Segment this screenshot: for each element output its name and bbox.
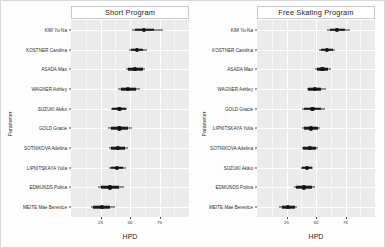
interval-row[interactable] bbox=[257, 178, 375, 196]
interval-row[interactable] bbox=[257, 80, 375, 98]
x-axis-tick-mark bbox=[346, 217, 347, 219]
y-axis-tick-label: EDMUNDS Polina bbox=[195, 185, 253, 190]
point-estimate-dot bbox=[325, 47, 329, 51]
interval-row[interactable] bbox=[257, 21, 375, 39]
point-estimate-dot bbox=[320, 67, 324, 71]
interval-row[interactable] bbox=[71, 41, 189, 59]
y-axis-tick-label: MEITE Mae Berenice bbox=[9, 205, 67, 210]
interval-row[interactable] bbox=[71, 80, 189, 98]
interval-row[interactable] bbox=[257, 41, 375, 59]
x-axis-title-short-program: HPD bbox=[71, 233, 189, 240]
point-estimate-dot bbox=[115, 166, 119, 170]
y-axis-tick-mark bbox=[255, 128, 257, 129]
interval-row[interactable] bbox=[71, 119, 189, 137]
y-axis-tick-label: KIM Yu-Na bbox=[195, 27, 253, 32]
y-axis-tick-mark bbox=[255, 49, 257, 50]
facet-short-program: Short Program KIM Yu-NaKOSTNER CarolinaA… bbox=[9, 6, 193, 244]
x-axis-tick-mark bbox=[160, 217, 161, 219]
y-axis-tick-label: LIPNITSKAYA Yulia bbox=[9, 165, 67, 170]
interval-row[interactable] bbox=[71, 139, 189, 157]
x-axis-tick-label: 75 bbox=[157, 220, 162, 225]
y-axis-tick-mark bbox=[255, 88, 257, 89]
y-axis-tick-label: ASADA Mao bbox=[195, 67, 253, 72]
point-estimate-dot bbox=[302, 185, 306, 189]
y-axis-tick-label: WAGNER Ashley bbox=[9, 86, 67, 91]
interval-row[interactable] bbox=[257, 100, 375, 118]
interval-row[interactable] bbox=[71, 21, 189, 39]
point-estimate-dot bbox=[126, 87, 130, 91]
y-axis-tick-label: SOTNIKOVA Adelina bbox=[9, 146, 67, 151]
y-axis-tick-mark bbox=[69, 128, 71, 129]
y-axis-tick-mark bbox=[255, 29, 257, 30]
point-estimate-dot bbox=[335, 28, 339, 32]
point-estimate-dot bbox=[313, 87, 317, 91]
interval-row[interactable] bbox=[71, 159, 189, 177]
y-axis-tick-label: ASADA Mao bbox=[9, 67, 67, 72]
interval-row[interactable] bbox=[71, 100, 189, 118]
y-axis-tick-mark bbox=[255, 69, 257, 70]
point-estimate-dot bbox=[108, 185, 112, 189]
x-axis-tick-label: 50 bbox=[128, 220, 133, 225]
y-axis-title-right: Parameter bbox=[201, 94, 207, 154]
y-axis-tick-label: EDMUNDS Polina bbox=[9, 185, 67, 190]
point-estimate-dot bbox=[100, 205, 104, 209]
y-axis-tick-mark bbox=[255, 148, 257, 149]
x-axis-tick-label: 50 bbox=[314, 220, 319, 225]
facet-strip-label: Short Program bbox=[105, 8, 155, 17]
interval-row[interactable] bbox=[257, 139, 375, 157]
y-axis-tick-label: KOSTNER Carolina bbox=[195, 47, 253, 52]
facet-free-skating-program: Free Skating Program KIM Yu-NaKOSTNER Ca… bbox=[195, 6, 379, 244]
point-estimate-dot bbox=[305, 166, 309, 170]
y-axis-title-left: Parameter bbox=[7, 94, 13, 154]
y-axis-tick-label: MEITE Mae Berenice bbox=[195, 205, 253, 210]
interval-row[interactable] bbox=[257, 198, 375, 216]
x-axis-tick-label: 25 bbox=[98, 220, 103, 225]
point-estimate-dot bbox=[133, 67, 137, 71]
y-axis-tick-mark bbox=[255, 167, 257, 168]
interval-row[interactable] bbox=[257, 159, 375, 177]
y-axis-tick-label: WAGNER Ashley bbox=[195, 86, 253, 91]
y-axis-tick-mark bbox=[255, 207, 257, 208]
x-axis-tick-mark bbox=[101, 217, 102, 219]
y-axis-tick-mark bbox=[69, 29, 71, 30]
x-axis-tick-mark bbox=[316, 217, 317, 219]
facet-strip-label: Free Skating Program bbox=[278, 8, 353, 17]
y-axis-tick-mark bbox=[255, 187, 257, 188]
point-estimate-dot bbox=[117, 126, 121, 130]
interval-row[interactable] bbox=[257, 60, 375, 78]
interval-row[interactable] bbox=[71, 178, 189, 196]
interval-row[interactable] bbox=[71, 60, 189, 78]
x-axis-tick-label: 25 bbox=[284, 220, 289, 225]
y-axis-tick-mark bbox=[69, 49, 71, 50]
y-axis-tick-mark bbox=[69, 167, 71, 168]
y-axis-tick-mark bbox=[69, 69, 71, 70]
facet-strip-free-skating-program: Free Skating Program bbox=[257, 6, 375, 19]
plot-panel-short-program bbox=[71, 20, 189, 217]
interval-row[interactable] bbox=[71, 198, 189, 216]
plot-panel-free-skating-program bbox=[257, 20, 375, 217]
point-estimate-dot bbox=[307, 146, 311, 150]
y-axis-tick-label: KOSTNER Carolina bbox=[9, 47, 67, 52]
point-estimate-dot bbox=[142, 28, 146, 32]
x-axis-tick-label: 75 bbox=[343, 220, 348, 225]
y-axis-tick-mark bbox=[69, 88, 71, 89]
y-axis-tick-label: SUZUKI Akiko bbox=[195, 165, 253, 170]
y-axis-tick-mark bbox=[255, 108, 257, 109]
x-axis-tick-mark bbox=[287, 217, 288, 219]
x-axis-title-free-skating-program: HPD bbox=[257, 233, 375, 240]
point-estimate-dot bbox=[116, 146, 120, 150]
interval-row[interactable] bbox=[257, 119, 375, 137]
x-axis-tick-mark bbox=[130, 217, 131, 219]
y-axis-tick-mark bbox=[69, 108, 71, 109]
facet-strip-short-program: Short Program bbox=[71, 6, 189, 19]
y-axis-tick-label: GOLD Gracie bbox=[9, 126, 67, 131]
forest-plot-figure: Short Program KIM Yu-NaKOSTNER CarolinaA… bbox=[0, 0, 385, 248]
point-estimate-dot bbox=[310, 107, 314, 111]
y-axis-tick-mark bbox=[69, 148, 71, 149]
y-axis-tick-mark bbox=[69, 187, 71, 188]
point-estimate-dot bbox=[286, 205, 290, 209]
point-estimate-dot bbox=[309, 126, 313, 130]
y-axis-tick-label: KIM Yu-Na bbox=[9, 27, 67, 32]
y-axis-tick-label: SUZUKI Akiko bbox=[9, 106, 67, 111]
point-estimate-dot bbox=[135, 47, 139, 51]
